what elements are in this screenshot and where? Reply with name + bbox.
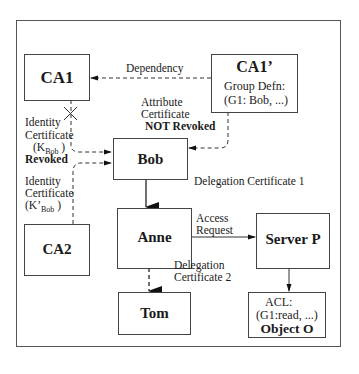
- ca1-prime-line1: Group Defn:: [224, 80, 285, 93]
- ca1-prime-line2: (G1: Bob, ...): [224, 94, 288, 107]
- key-close: ): [58, 141, 65, 153]
- key2-open: (K’: [25, 199, 41, 211]
- ca2-title: CA2: [25, 241, 89, 258]
- identity-cert-2-key: (K’Bob ): [25, 199, 61, 216]
- identity-cert-2-edge: [73, 163, 111, 224]
- node-object-o: ACL: (G1:read, ...) Object O: [248, 292, 326, 338]
- node-ca2: CA2: [24, 224, 90, 276]
- key2-close: ): [54, 199, 61, 211]
- identity-cert-1-edge: [71, 100, 111, 152]
- tom-title: Tom: [119, 305, 190, 322]
- node-tom: Tom: [118, 292, 191, 335]
- server-p-title: Server P: [257, 231, 329, 248]
- dependency-label: Dependency: [126, 62, 183, 75]
- object-o-title: Object O: [249, 321, 325, 337]
- delegation-2-line2: Certificate 2: [174, 271, 231, 284]
- bob-title: Bob: [114, 151, 187, 168]
- ca1-prime-title: CA1’: [212, 58, 297, 76]
- identity-cert-1-status: Revoked: [25, 153, 68, 166]
- node-bob: Bob: [113, 138, 188, 180]
- key2-sub: Bob: [41, 205, 54, 214]
- node-ca1-prime: CA1’ Group Defn: (G1: Bob, ...): [211, 54, 298, 113]
- node-server-p: Server P: [256, 213, 330, 269]
- anne-title: Anne: [118, 229, 191, 246]
- identity-cert-1-line1: Identity: [25, 116, 61, 129]
- access-request-line2: Request: [196, 224, 233, 237]
- ca1-title: CA1: [25, 68, 89, 88]
- attribute-cert-status: NOT Revoked: [145, 120, 215, 133]
- key-open: (K: [33, 141, 45, 153]
- node-ca1: CA1: [24, 54, 90, 101]
- delegation-1-label: Delegation Certificate 1: [194, 175, 304, 188]
